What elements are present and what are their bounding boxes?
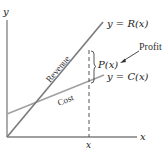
cost-label: Cost bbox=[56, 92, 76, 108]
revenue-equation: y = R(x) bbox=[106, 18, 148, 29]
x-axis-label: x bbox=[140, 131, 146, 142]
profit-arrow bbox=[123, 51, 139, 61]
cost-equation: y = C(x) bbox=[106, 71, 149, 82]
profit-label: Profit bbox=[139, 41, 162, 52]
profit-function-label: P(x) bbox=[97, 59, 118, 70]
y-axis-label: y bbox=[2, 6, 9, 17]
diagram-svg: y x x y = R(x) y = C(x) P(x) Profit Reve… bbox=[0, 0, 165, 149]
x-tick-label: x bbox=[86, 140, 91, 149]
revenue-cost-diagram: y x x y = R(x) y = C(x) P(x) Profit Reve… bbox=[0, 0, 165, 149]
arrowhead-icon bbox=[120, 59, 126, 64]
revenue-label: Revenue bbox=[44, 54, 72, 85]
